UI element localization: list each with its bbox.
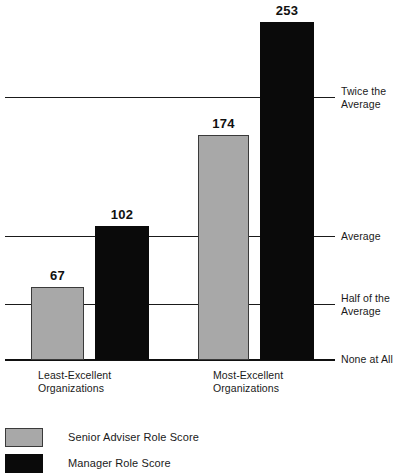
bar-value-most-excellent-manager: 253 xyxy=(260,3,314,18)
bar-most-excellent-manager[interactable] xyxy=(260,22,314,360)
bar-least-excellent-manager[interactable] xyxy=(95,226,149,360)
axis-label-none-at-all: None at All xyxy=(341,353,393,366)
plot-area: Twice the Average Average Half of the Av… xyxy=(0,0,403,405)
legend-label-senior-adviser: Senior Adviser Role Score xyxy=(68,431,199,443)
legend-swatch-manager xyxy=(5,454,43,473)
legend-item-senior-adviser-role-score[interactable]: Senior Adviser Role Score xyxy=(5,427,199,447)
bar-value-least-excellent-senior: 67 xyxy=(31,268,84,283)
legend-item-manager-role-score[interactable]: Manager Role Score xyxy=(5,453,171,473)
axis-label-half-of-the-average: Half of the Average xyxy=(341,292,390,317)
category-label-least-excellent: Least-Excellent Organizations xyxy=(38,369,168,395)
legend-swatch-senior-adviser xyxy=(5,428,43,447)
bar-most-excellent-senior[interactable] xyxy=(198,135,249,360)
axis-label-twice-the-average: Twice the Average xyxy=(341,85,386,110)
axis-label-average: Average xyxy=(341,230,381,243)
bar-value-least-excellent-manager: 102 xyxy=(95,207,149,222)
bar-value-most-excellent-senior: 174 xyxy=(198,116,249,131)
chart-legend: Senior Adviser Role Score Manager Role S… xyxy=(0,415,403,470)
bar-least-excellent-senior[interactable] xyxy=(31,287,84,360)
legend-label-manager: Manager Role Score xyxy=(68,457,171,469)
category-label-most-excellent: Most-Excellent Organizations xyxy=(213,369,343,395)
